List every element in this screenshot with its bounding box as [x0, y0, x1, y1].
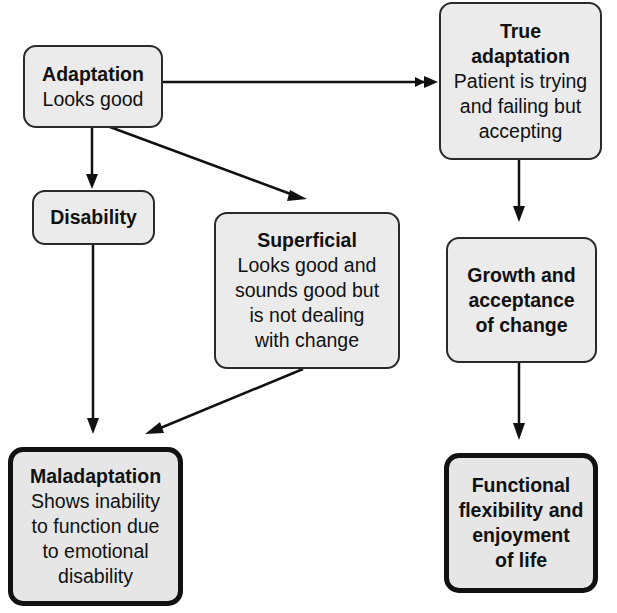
node-body: is not dealing: [250, 303, 365, 328]
node-true-adaptation: True adaptation Patient is trying and fa…: [439, 2, 602, 160]
arrowhead-icon: [145, 422, 164, 434]
node-body: disability: [58, 564, 133, 589]
arrowhead-icon: [513, 206, 525, 222]
node-title: True: [500, 19, 541, 44]
node-title: enjoyment: [472, 523, 570, 548]
node-title: of life: [495, 548, 547, 573]
node-functional: Functional flexibility and enjoyment of …: [444, 453, 598, 593]
arrowhead-icon: [87, 418, 99, 434]
node-body: Shows inability: [31, 489, 160, 514]
node-title: Maladaptation: [30, 464, 161, 489]
arrowhead-icon: [513, 423, 525, 440]
arrow-superficial-to-maladaptation: [158, 369, 303, 429]
node-title: of change: [475, 313, 567, 338]
node-title: Functional: [472, 473, 571, 498]
node-disability: Disability: [32, 190, 155, 245]
node-title: adaptation: [471, 44, 570, 69]
node-body: Looks good and: [238, 253, 377, 278]
node-superficial: Superficial Looks good and sounds good b…: [214, 212, 400, 369]
node-maladaptation: Maladaptation Shows inability to functio…: [8, 447, 183, 606]
node-body: Patient is trying: [454, 69, 587, 94]
node-body: to emotional: [42, 539, 148, 564]
node-body: sounds good but: [235, 278, 379, 303]
node-title: acceptance: [468, 288, 574, 313]
arrowhead-icon: [287, 190, 307, 201]
node-title: flexibility and: [459, 498, 584, 523]
node-title: Adaptation: [42, 62, 144, 87]
node-body: to function due: [32, 514, 160, 539]
arrow-adaptation-to-superficial: [110, 127, 296, 196]
node-body: with change: [255, 328, 359, 353]
node-body: accepting: [479, 119, 562, 144]
node-growth: Growth and acceptance of change: [446, 237, 597, 363]
node-body: and failing but: [460, 94, 581, 119]
arrowhead-icon: [424, 76, 438, 88]
arrowhead-icon: [86, 174, 98, 189]
node-adaptation: Adaptation Looks good: [23, 45, 163, 128]
node-title: Growth and: [467, 263, 575, 288]
node-title: Superficial: [257, 228, 357, 253]
node-title: Disability: [50, 205, 137, 230]
node-body: Looks good: [43, 87, 144, 112]
